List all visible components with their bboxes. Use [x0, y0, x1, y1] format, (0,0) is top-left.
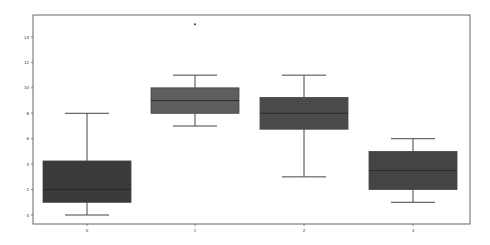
x-tick-label: 1 — [194, 228, 197, 233]
box-group-3 — [369, 139, 457, 203]
x-axis: 0123 — [86, 224, 415, 233]
y-tick-label: 2 — [26, 187, 29, 192]
y-tick-label: 8 — [26, 111, 29, 116]
x-tick-label: 3 — [412, 228, 415, 233]
box-plot-chart: 02468101214 0123 — [0, 0, 490, 245]
box-group-0 — [43, 113, 131, 215]
x-tick-label: 0 — [86, 228, 89, 233]
y-tick-label: 4 — [26, 162, 29, 167]
box-iqr — [43, 161, 131, 202]
outlier-marker — [194, 23, 196, 25]
x-tick-label: 2 — [303, 228, 306, 233]
y-tick-label: 14 — [24, 35, 30, 40]
boxes — [43, 23, 457, 215]
y-tick-label: 6 — [26, 136, 29, 141]
y-axis: 02468101214 — [24, 35, 33, 218]
box-group-2 — [260, 75, 348, 177]
y-tick-label: 12 — [24, 60, 30, 65]
box-group-1 — [151, 23, 239, 126]
y-tick-label: 0 — [26, 213, 29, 218]
y-tick-label: 10 — [24, 85, 30, 90]
